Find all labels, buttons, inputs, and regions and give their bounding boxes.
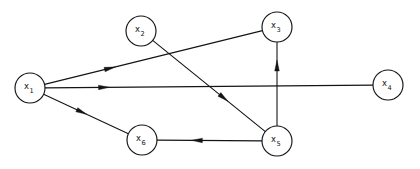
node-label-base-x2: x: [135, 24, 140, 34]
node-label-sub-x3: 3: [276, 26, 280, 34]
edges-layer: [44, 31, 373, 141]
node-x2[interactable]: x2: [126, 16, 156, 46]
arrowhead-x5-x3: [275, 60, 280, 71]
node-x6[interactable]: x6: [127, 125, 157, 155]
arrowhead-x1-x3: [104, 67, 115, 72]
node-label-sub-x5: 5: [276, 140, 280, 148]
node-label-base-x3: x: [271, 20, 276, 30]
arrowhead-x5-x6: [191, 138, 202, 143]
node-x3[interactable]: x3: [262, 12, 292, 42]
nodes-layer: x1x2x3x4x5x6: [15, 12, 403, 156]
edge-x5-x6: [157, 140, 262, 141]
node-label-sub-x6: 6: [141, 139, 145, 147]
node-label-base-x4: x: [382, 78, 387, 88]
arrowheads-layer: [76, 60, 279, 143]
node-label-sub-x1: 1: [29, 87, 33, 95]
node-x5[interactable]: x5: [262, 126, 292, 156]
arrowhead-x1-x4: [99, 85, 110, 90]
node-x1[interactable]: x1: [15, 73, 45, 103]
node-x4[interactable]: x4: [373, 70, 403, 100]
node-label-sub-x2: 2: [140, 30, 144, 38]
graph-figure: x1x2x3x4x5x6: [0, 0, 420, 169]
node-label-base-x1: x: [24, 81, 29, 91]
graph-canvas: x1x2x3x4x5x6: [0, 0, 420, 169]
node-label-base-x6: x: [136, 133, 141, 143]
node-label-base-x5: x: [271, 134, 276, 144]
arrowhead-x1-x6: [76, 108, 87, 115]
node-label-sub-x4: 4: [387, 84, 391, 92]
